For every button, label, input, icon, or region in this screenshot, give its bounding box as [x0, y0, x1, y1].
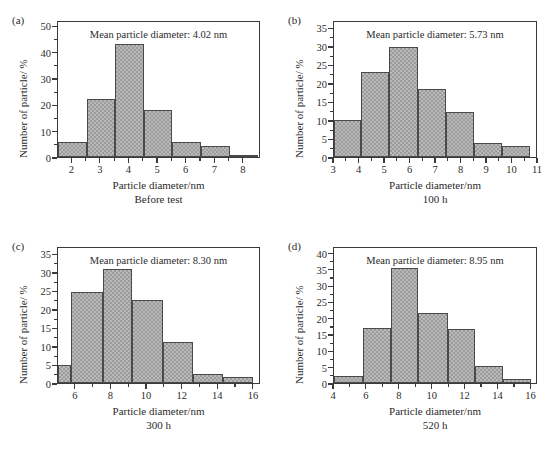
x-tick-label: 10	[426, 390, 437, 401]
y-minor-tick	[330, 261, 333, 262]
y-minor-tick	[330, 310, 333, 311]
y-tick	[328, 302, 333, 303]
x-tick-label: 14	[492, 390, 503, 401]
y-tick-label: 35	[301, 264, 327, 275]
panel-caption-d: 520 h	[333, 419, 537, 431]
x-tick	[332, 384, 333, 389]
y-minor-tick	[330, 326, 333, 327]
x-minor-tick	[349, 384, 350, 387]
x-tick	[431, 384, 432, 389]
x-tick	[365, 384, 366, 389]
x-axis-title-d: Particle diameter/nm	[333, 405, 537, 417]
panel-d: (d)Mean particle diameter: 8.95 nm468101…	[0, 0, 553, 467]
histogram-figure: (a)Mean particle diameter: 4.02 nm234567…	[0, 0, 553, 467]
bars-d	[334, 248, 536, 383]
x-tick-label: 6	[363, 390, 368, 401]
x-tick-label: 12	[459, 390, 470, 401]
y-minor-tick	[330, 375, 333, 376]
bar	[448, 329, 476, 383]
y-tick	[328, 286, 333, 287]
bar	[391, 268, 418, 383]
panel-letter-d: (d)	[288, 240, 301, 252]
y-axis-title-d: Number of particle/ %	[293, 285, 305, 384]
y-tick	[328, 334, 333, 335]
y-tick	[328, 367, 333, 368]
bar	[334, 376, 363, 383]
bar	[363, 328, 391, 383]
x-minor-tick	[415, 384, 416, 387]
x-minor-tick	[513, 384, 514, 387]
x-tick	[497, 384, 498, 389]
y-tick	[328, 253, 333, 254]
x-tick-label: 4	[330, 390, 335, 401]
x-tick-label: 16	[525, 390, 536, 401]
plot-area-d	[333, 247, 537, 384]
x-minor-tick	[382, 384, 383, 387]
bar	[503, 379, 530, 383]
y-tick	[328, 318, 333, 319]
y-tick	[328, 351, 333, 352]
bar	[475, 366, 503, 383]
y-minor-tick	[330, 343, 333, 344]
y-tick	[328, 269, 333, 270]
y-minor-tick	[330, 359, 333, 360]
x-tick	[398, 384, 399, 389]
x-tick	[464, 384, 465, 389]
x-tick-label: 8	[396, 390, 401, 401]
y-tick	[328, 383, 333, 384]
x-minor-tick	[480, 384, 481, 387]
x-minor-tick	[448, 384, 449, 387]
y-tick-label: 40	[301, 248, 327, 259]
bar	[418, 313, 448, 383]
mean-diameter-label-d: Mean particle diameter: 8.95 nm	[366, 255, 503, 266]
y-minor-tick	[330, 294, 333, 295]
y-minor-tick	[330, 277, 333, 278]
x-tick	[530, 384, 531, 389]
